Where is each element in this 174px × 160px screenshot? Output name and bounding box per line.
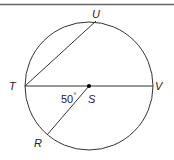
label-R: R	[34, 137, 42, 149]
angle-unit: °	[73, 91, 76, 100]
label-U: U	[92, 8, 100, 20]
chord-TU	[25, 21, 96, 86]
label-S: S	[88, 93, 96, 105]
angle-value: 50	[61, 93, 73, 105]
label-T: T	[9, 80, 17, 92]
circle-diagram: U T V S R 50°	[0, 0, 174, 160]
center-point-S	[87, 84, 91, 88]
label-V: V	[155, 80, 164, 92]
